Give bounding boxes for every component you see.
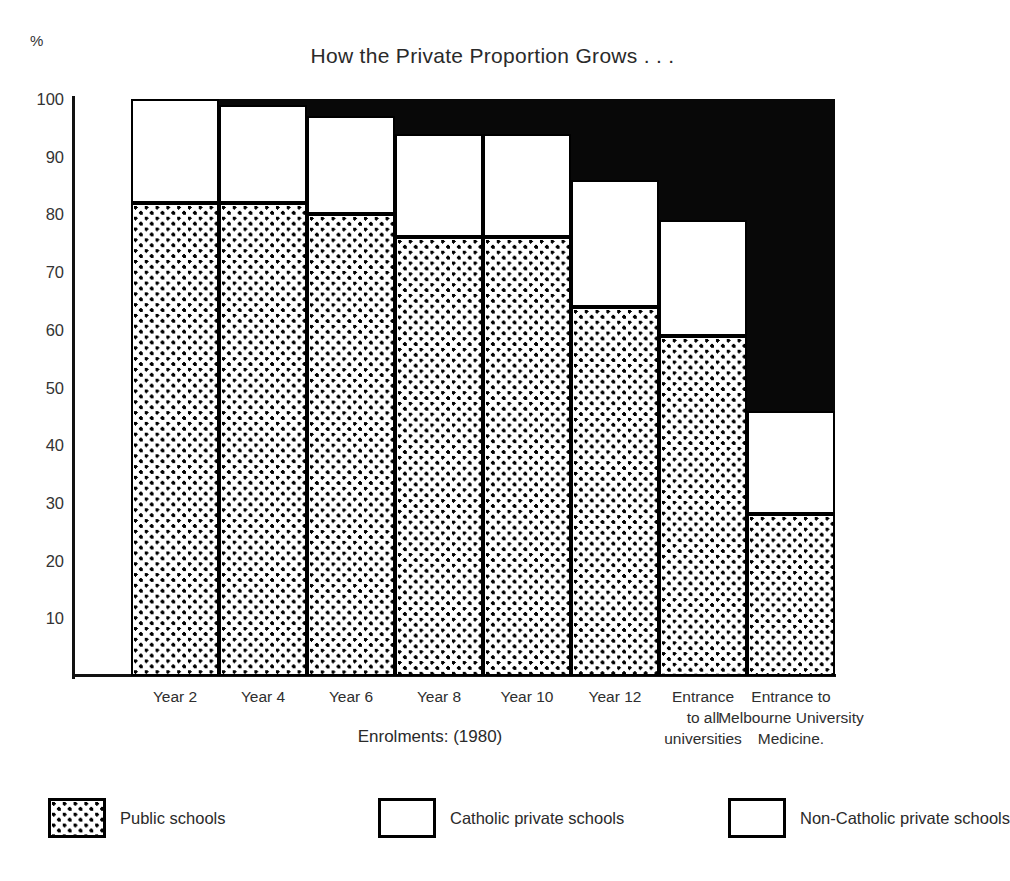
- bar-segment-public[interactable]: [219, 203, 307, 676]
- bar-segment-catholic[interactable]: [483, 134, 571, 238]
- x-axis-category-label-line: Entrance to: [696, 686, 886, 707]
- y-axis-tick-label: 90: [12, 147, 64, 166]
- x-axis-category-label-line: Year 2: [131, 686, 219, 707]
- x-axis-category-label-line: Year 4: [219, 686, 307, 707]
- y-axis-tick-label: 70: [12, 263, 64, 282]
- x-axis-category-label-line: Year 8: [395, 686, 483, 707]
- chart-title: How the Private Proportion Grows . . .: [0, 44, 965, 68]
- bar-segment-catholic[interactable]: [307, 116, 395, 214]
- bar-segment-public[interactable]: [307, 214, 395, 676]
- x-axis-category-label: Year 8: [395, 686, 483, 707]
- plot-area: [131, 99, 835, 676]
- y-axis-tick-label: 20: [12, 551, 64, 570]
- bar-segment-catholic[interactable]: [747, 411, 835, 515]
- bar-column[interactable]: [483, 99, 571, 676]
- bar-segment-catholic[interactable]: [131, 99, 219, 203]
- legend-swatch-noncatholic: [728, 798, 786, 838]
- bar-segment-non-catholic[interactable]: [659, 99, 747, 220]
- bar-column[interactable]: [747, 99, 835, 676]
- legend-label: Public schools: [120, 809, 225, 828]
- y-axis-tick-labels: 100908070605040302010: [6, 0, 64, 881]
- legend-item[interactable]: Public schools: [48, 798, 225, 838]
- y-axis-line: [72, 96, 75, 679]
- bar-segment-catholic[interactable]: [395, 134, 483, 238]
- bar-segment-catholic[interactable]: [219, 105, 307, 203]
- legend-swatch-public: [48, 798, 106, 838]
- bar-segment-public[interactable]: [131, 203, 219, 676]
- bar-segment-non-catholic[interactable]: [483, 99, 571, 134]
- bar-segment-public[interactable]: [483, 237, 571, 676]
- bar-segment-public[interactable]: [395, 237, 483, 676]
- bar-segment-public[interactable]: [659, 336, 747, 676]
- bar-segment-public[interactable]: [747, 514, 835, 676]
- x-axis-category-label-line: Year 6: [307, 686, 395, 707]
- bar-segment-non-catholic[interactable]: [747, 99, 835, 411]
- y-axis-tick-label: 100: [12, 90, 64, 109]
- bar-column[interactable]: [395, 99, 483, 676]
- x-axis-category-label-line: Melbourne University: [696, 707, 886, 728]
- x-axis-category-label: Year 2: [131, 686, 219, 707]
- bar-column[interactable]: [659, 99, 747, 676]
- bar-segment-public[interactable]: [571, 307, 659, 676]
- bar-segment-catholic[interactable]: [659, 220, 747, 335]
- bar-segment-non-catholic[interactable]: [571, 99, 659, 180]
- x-axis-category-label: Entrance toMelbourne UniversityMedicine.: [696, 686, 886, 749]
- bar-column[interactable]: [131, 99, 219, 676]
- bar-segment-non-catholic[interactable]: [307, 99, 395, 116]
- y-axis-tick-label: 40: [12, 436, 64, 455]
- x-axis-category-label: Year 10: [483, 686, 571, 707]
- legend-item[interactable]: Catholic private schools: [378, 798, 624, 838]
- y-axis-tick-label: 30: [12, 493, 64, 512]
- chart-legend: Public schoolsCatholic private schoolsNo…: [48, 798, 938, 840]
- legend-label: Non-Catholic private schools: [800, 809, 1010, 828]
- y-axis-tick-label: 80: [12, 205, 64, 224]
- x-axis-category-label-line: Medicine.: [696, 728, 886, 749]
- bar-segment-catholic[interactable]: [571, 180, 659, 307]
- y-axis-tick-label: 10: [12, 609, 64, 628]
- legend-item[interactable]: Non-Catholic private schools: [728, 798, 1010, 838]
- bar-column[interactable]: [307, 99, 395, 676]
- x-axis-category-label: Year 6: [307, 686, 395, 707]
- y-axis-tick-label: 60: [12, 320, 64, 339]
- x-axis-title: Enrolments: (1980): [200, 727, 660, 747]
- x-axis-category-label-line: Year 10: [483, 686, 571, 707]
- bar-column[interactable]: [571, 99, 659, 676]
- x-axis-category-label: Year 4: [219, 686, 307, 707]
- legend-swatch-catholic: [378, 798, 436, 838]
- bar-column[interactable]: [219, 99, 307, 676]
- legend-label: Catholic private schools: [450, 809, 624, 828]
- bar-segment-non-catholic[interactable]: [395, 99, 483, 134]
- y-axis-tick-label: 50: [12, 378, 64, 397]
